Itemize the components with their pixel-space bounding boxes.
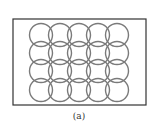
circle-grid (30, 24, 129, 102)
figure-caption: (a) (0, 111, 158, 121)
